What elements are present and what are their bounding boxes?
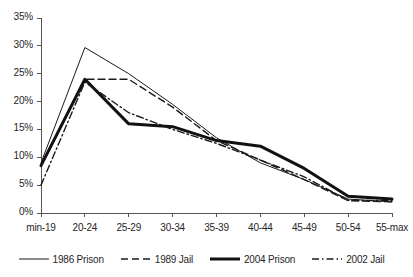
legend-swatch-2: [121, 254, 151, 264]
legend-swatch-4: [312, 254, 342, 264]
legend-item: 2002 Jail: [312, 254, 384, 265]
legend-label: 1986 Prison: [53, 254, 104, 265]
legend-item: 1986 Prison: [19, 254, 104, 265]
axis-lines: [41, 18, 392, 213]
legend-swatch-3: [210, 254, 240, 264]
legend-label: 1989 Jail: [155, 254, 193, 265]
x-axis-tick-label: 55-max: [366, 222, 413, 233]
y-axis-tick-label: 35%: [0, 11, 33, 22]
y-axis-tick-label: 30%: [0, 39, 33, 50]
legend-item: 2004 Prison: [210, 254, 295, 265]
legend-item: 1989 Jail: [121, 254, 193, 265]
legend-label: 2004 Prison: [244, 254, 295, 265]
axis-ticks: [37, 18, 392, 217]
y-axis-tick-label: 5%: [0, 178, 33, 189]
legend-swatch-1: [19, 254, 49, 264]
data-series-group: [41, 48, 392, 202]
chart-legend: 1986 Prison1989 Jail2004 Prison2002 Jail: [0, 249, 403, 269]
series-line: [41, 48, 392, 202]
y-axis-tick-label: 10%: [0, 150, 33, 161]
legend-label: 2002 Jail: [346, 254, 384, 265]
y-axis-tick-label: 0%: [0, 206, 33, 217]
y-axis-tick-label: 25%: [0, 67, 33, 78]
series-line: [41, 79, 392, 199]
y-axis-tick-label: 20%: [0, 95, 33, 106]
y-axis-tick-label: 15%: [0, 122, 33, 133]
